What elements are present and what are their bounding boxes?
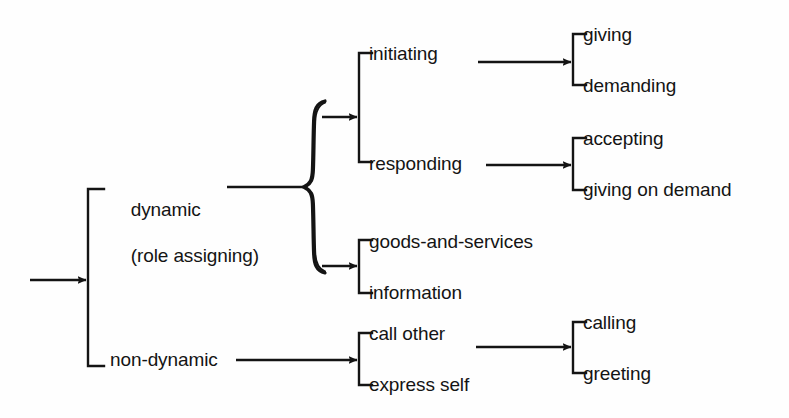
node-information: information [369, 281, 462, 304]
node-dynamic: dynamic (role assigning) [110, 175, 259, 290]
root-bracket-icon [88, 189, 104, 366]
node-greeting: greeting [583, 362, 651, 385]
node-goods-and-services: goods-and-services [369, 230, 533, 253]
node-responding: responding [369, 152, 462, 175]
node-call-other: call other [369, 322, 445, 345]
node-calling: calling [583, 311, 636, 334]
node-demanding: demanding [583, 74, 676, 97]
dynamic-curly-brace-icon [304, 101, 326, 273]
node-dynamic-line1: dynamic [131, 199, 201, 220]
node-initiating: initiating [369, 42, 438, 65]
node-giving-on-demand: giving on demand [583, 178, 731, 201]
node-giving: giving [583, 23, 632, 46]
speech-function-diagram: dynamic (role assigning) non-dynamic ini… [0, 0, 789, 418]
node-dynamic-line2: (role assigning) [131, 245, 259, 266]
node-non-dynamic: non-dynamic [110, 348, 218, 371]
node-accepting: accepting [583, 127, 663, 150]
node-express-self: express self [369, 373, 469, 396]
initiating-responding-bracket-icon [359, 53, 372, 162]
